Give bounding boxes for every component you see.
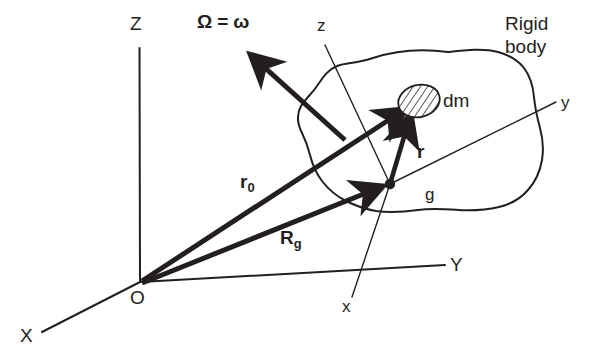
angular-velocity-label: Ω=ω	[197, 12, 249, 31]
rigid-body-label: Rigid body	[505, 12, 548, 58]
axis-global-Z	[140, 48, 141, 282]
omega-capital-symbol: Ω	[197, 11, 212, 32]
vector-r	[390, 117, 410, 184]
rigid-body-diagram: Z Y X O z y x g dm Rigid body Ω=ω r0 Rg …	[0, 0, 594, 354]
axis-global-X	[42, 282, 140, 332]
body-fixed-frame-xyz	[325, 45, 556, 297]
axis-label-body-y: y	[561, 94, 570, 111]
mass-element-label: dm	[443, 91, 469, 110]
axis-label-global-Y: Y	[450, 255, 463, 274]
origin-label: O	[130, 288, 145, 307]
vector-Rg-base: R	[280, 227, 294, 248]
axis-label-body-z: z	[317, 17, 326, 34]
center-of-gravity-label: g	[425, 186, 434, 203]
vector-Rg-subscript: g	[294, 236, 302, 251]
axis-body-z	[325, 45, 390, 184]
vector-r0-subscript: 0	[247, 180, 254, 195]
axis-label-global-Z: Z	[130, 14, 142, 33]
axis-body-x	[352, 184, 390, 297]
omega-lowercase-symbol: ω	[233, 11, 249, 32]
axis-label-global-X: X	[20, 326, 33, 345]
axis-label-body-x: x	[342, 298, 351, 315]
center-of-gravity-point	[385, 179, 395, 189]
vector-r-label: r	[417, 142, 424, 161]
vector-Rg-label: Rg	[280, 228, 302, 251]
vector-r0-label: r0	[240, 172, 255, 195]
mass-element-ellipse	[395, 80, 443, 121]
equals-sign: =	[217, 11, 228, 32]
